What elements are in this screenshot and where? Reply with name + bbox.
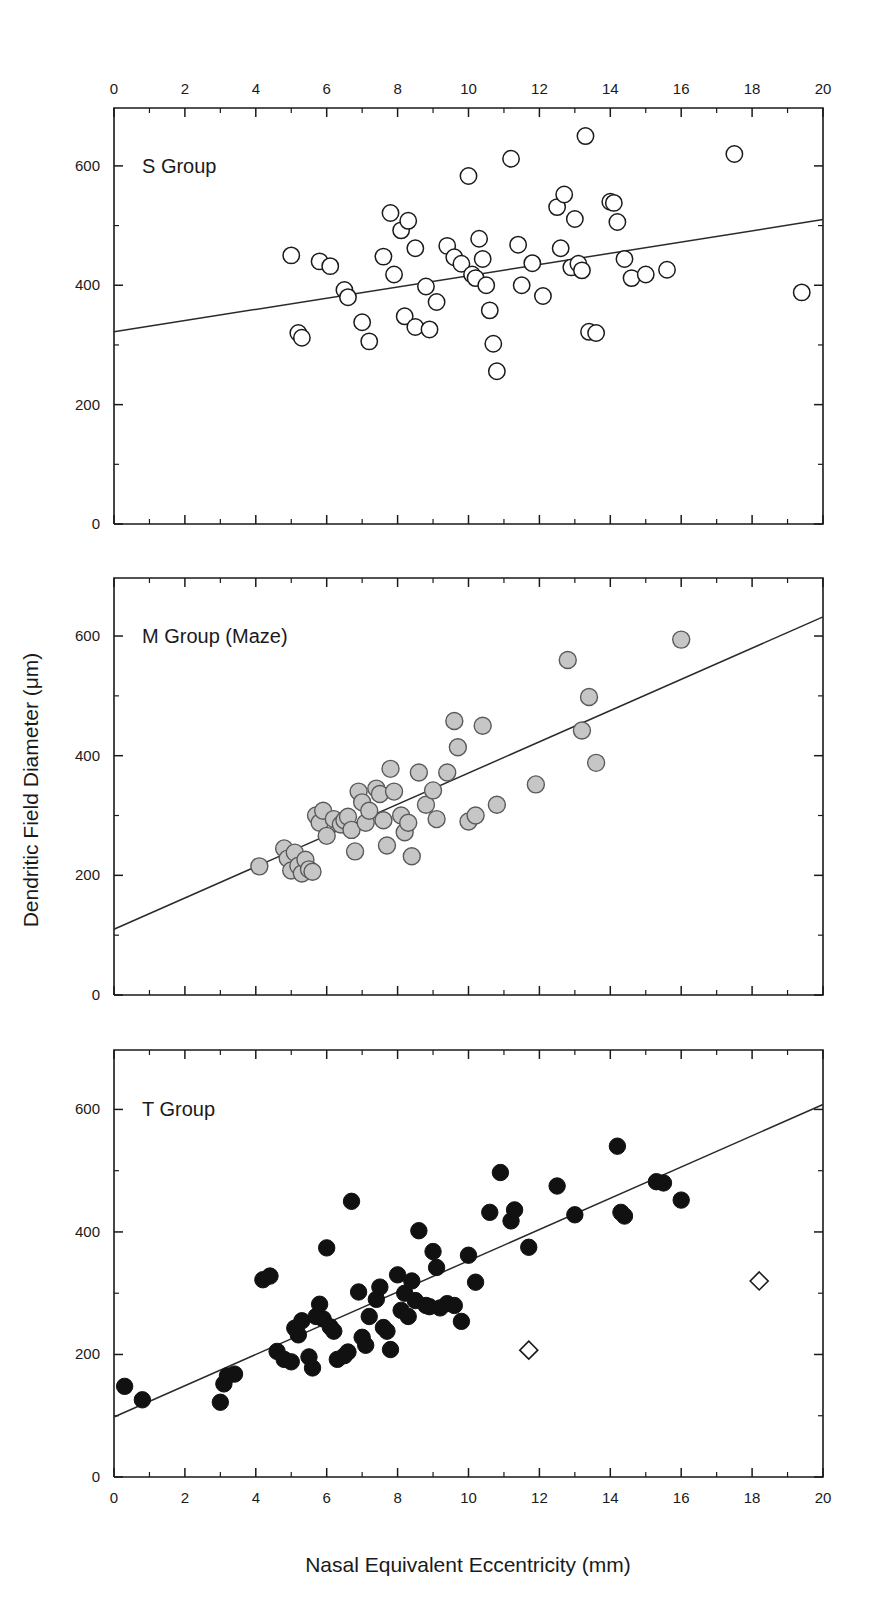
y-tick-label: 600 <box>75 627 100 644</box>
data-point-open <box>361 333 377 349</box>
series-s-group <box>283 128 810 380</box>
x-tick-label: 20 <box>815 80 832 97</box>
data-point-solid <box>400 1308 416 1324</box>
data-point-solid <box>428 1259 444 1275</box>
x-tick-label: 12 <box>531 1489 548 1506</box>
data-point-solid <box>350 1284 366 1300</box>
data-point-gray <box>375 812 392 829</box>
y-tick-label: 400 <box>75 747 100 764</box>
x-axis-title: Nasal Equivalent Eccentricity (mm) <box>305 1553 631 1576</box>
x-tick-label: 18 <box>744 80 761 97</box>
data-point-gray <box>382 760 399 777</box>
data-point-open <box>354 314 370 330</box>
data-point-solid <box>446 1297 462 1313</box>
data-point-solid <box>343 1193 359 1209</box>
data-point-solid <box>340 1344 356 1360</box>
data-point-open <box>375 248 391 264</box>
data-point-gray <box>425 782 442 799</box>
y-tick-label: 200 <box>75 1345 100 1362</box>
y-tick-label: 200 <box>75 866 100 883</box>
data-point-gray <box>439 764 456 781</box>
data-point-open <box>386 266 402 282</box>
data-point-solid <box>673 1192 689 1208</box>
data-point-solid <box>116 1378 132 1394</box>
data-point-solid <box>283 1354 299 1370</box>
data-point-gray <box>403 848 420 865</box>
data-point-solid <box>226 1366 242 1382</box>
data-point-open <box>616 251 632 267</box>
data-point-open <box>659 262 675 278</box>
data-point-gray <box>559 651 576 668</box>
data-point-gray <box>304 863 321 880</box>
data-point-solid <box>304 1360 320 1376</box>
data-point-solid <box>134 1392 150 1408</box>
x-tick-label: 20 <box>815 1489 832 1506</box>
data-point-open <box>489 363 505 379</box>
x-tick-label: 12 <box>531 80 548 97</box>
data-point-gray <box>581 689 598 706</box>
data-point-open <box>606 195 622 211</box>
data-point-gray <box>318 827 335 844</box>
x-tick-label: 10 <box>460 1489 477 1506</box>
data-point-open <box>524 255 540 271</box>
data-point-solid <box>319 1240 335 1256</box>
data-point-gray <box>378 837 395 854</box>
series-m-group-maze- <box>251 631 690 882</box>
data-point-solid <box>361 1308 377 1324</box>
data-point-gray <box>673 631 690 648</box>
x-tick-label: 0 <box>110 80 118 97</box>
y-tick-label: 0 <box>92 1468 100 1485</box>
data-point-open <box>638 266 654 282</box>
panels-layer: 020040060002468101214161820S Group020040… <box>75 80 831 1506</box>
data-point-gray <box>251 858 268 875</box>
data-point-gray <box>400 814 417 831</box>
data-point-gray <box>386 783 403 800</box>
data-point-open <box>567 211 583 227</box>
data-point-open <box>503 151 519 167</box>
data-point-open <box>283 247 299 263</box>
data-point-solid <box>411 1223 427 1239</box>
x-tick-label: 6 <box>323 80 331 97</box>
data-point-diamond <box>520 1341 538 1359</box>
data-point-open <box>513 277 529 293</box>
x-tick-label: 6 <box>323 1489 331 1506</box>
data-point-solid <box>326 1323 342 1339</box>
x-tick-label: 2 <box>181 80 189 97</box>
data-point-gray <box>527 776 544 793</box>
data-point-open <box>609 214 625 230</box>
x-tick-label: 14 <box>602 80 619 97</box>
data-point-open <box>726 146 742 162</box>
data-point-open <box>577 128 593 144</box>
panel-title: S Group <box>142 155 216 177</box>
x-tick-label: 8 <box>393 1489 401 1506</box>
data-point-solid <box>262 1268 278 1284</box>
data-point-gray <box>488 796 505 813</box>
data-point-solid <box>372 1279 388 1295</box>
data-point-solid <box>311 1296 327 1312</box>
data-point-open <box>552 240 568 256</box>
y-tick-label: 0 <box>92 986 100 1003</box>
panel-bottom: 020040060002468101214161820T Group <box>75 1050 831 1506</box>
x-tick-label: 0 <box>110 1489 118 1506</box>
data-point-solid <box>453 1313 469 1329</box>
data-point-open <box>535 288 551 304</box>
data-point-open <box>418 278 434 294</box>
data-point-solid <box>404 1273 420 1289</box>
data-point-open <box>340 289 356 305</box>
x-tick-label: 16 <box>673 1489 690 1506</box>
y-axis-title: Dendritic Field Diameter (μm) <box>19 653 42 928</box>
y-tick-label: 400 <box>75 276 100 293</box>
data-point-open <box>382 205 398 221</box>
data-point-open <box>407 240 423 256</box>
regression-line <box>114 617 823 929</box>
data-point-open <box>421 321 437 337</box>
data-point-open <box>478 277 494 293</box>
data-point-gray <box>474 717 491 734</box>
x-tick-label: 2 <box>181 1489 189 1506</box>
data-point-solid <box>549 1178 565 1194</box>
y-tick-label: 0 <box>92 515 100 532</box>
figure-root: 020040060002468101214161820S Group020040… <box>0 0 875 1598</box>
series-outliers <box>520 1272 768 1359</box>
data-point-open <box>574 262 590 278</box>
x-tick-label: 14 <box>602 1489 619 1506</box>
